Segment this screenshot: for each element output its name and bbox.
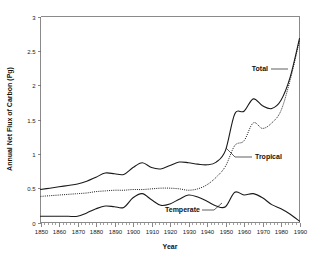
y-axis-title: Annual Net Flux of Carbon (Pg) [6, 67, 14, 171]
x-tick-label: 1920 [164, 229, 178, 235]
x-tick-label: 1990 [294, 229, 308, 235]
x-tick-label: 1870 [72, 229, 86, 235]
y-tick-label: 0.5 [27, 186, 36, 192]
x-axis-tick-labels: 1850186018701880189019001910192019301940… [35, 229, 308, 235]
series-label-temperate: Temperate [165, 206, 200, 214]
series-label-total: Total [252, 65, 268, 72]
x-tick-label: 1910 [146, 229, 160, 235]
x-tick-label: 1940 [201, 229, 215, 235]
x-tick-label: 1980 [275, 229, 289, 235]
x-tick-label: 1930 [183, 229, 197, 235]
chart-container: 00.511.522.53 18501860187018801890190019… [0, 0, 318, 253]
x-tick-label: 1890 [109, 229, 123, 235]
carbon-flux-line-chart: 00.511.522.53 18501860187018801890190019… [0, 0, 318, 253]
x-axis-title: Year [163, 243, 178, 250]
x-tick-label: 1970 [257, 229, 271, 235]
chart-background [0, 0, 318, 253]
x-tick-label: 1950 [220, 229, 234, 235]
x-tick-label: 1880 [90, 229, 104, 235]
x-tick-label: 1900 [127, 229, 141, 235]
x-tick-label: 1860 [53, 229, 67, 235]
y-tick-label: 1.5 [27, 118, 36, 124]
x-tick-label: 1850 [35, 229, 49, 235]
series-label-tropical: Tropical [255, 153, 282, 161]
y-tick-label: 2.5 [27, 49, 36, 55]
x-tick-label: 1960 [238, 229, 252, 235]
